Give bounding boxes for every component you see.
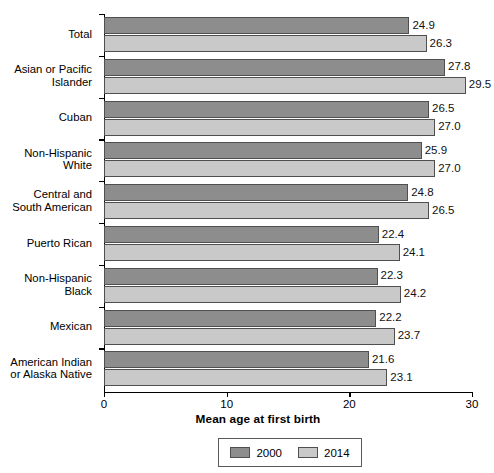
category-label: Total: [0, 28, 92, 41]
bar-group: 24.826.5: [104, 183, 472, 225]
bar-value-label: 22.4: [382, 229, 404, 241]
bar-group: 22.324.2: [104, 267, 472, 309]
bar-2000: 24.9: [104, 17, 409, 34]
bar-group: 25.927.0: [104, 141, 472, 183]
bar-value-label: 24.8: [411, 187, 433, 199]
y-axis-tick: [99, 56, 104, 57]
bar-value-label: 23.7: [398, 330, 420, 342]
bar-chart: TotalAsian or Pacific IslanderCubanNon-H…: [0, 0, 494, 473]
category-label: Puerto Rican: [0, 237, 92, 250]
bar-2000: 22.4: [104, 226, 379, 243]
x-axis-tick-label: 30: [466, 398, 479, 410]
bar-group: 22.223.7: [104, 309, 472, 351]
legend-label: 2014: [324, 447, 350, 459]
bar-value-label: 25.9: [425, 145, 447, 157]
bar-2014: 26.5: [104, 202, 429, 219]
x-axis-tick: [104, 392, 105, 397]
bar-value-label: 24.9: [412, 20, 434, 32]
bar-2014: 27.0: [104, 119, 435, 136]
bar-value-label: 26.5: [432, 103, 454, 115]
bar-value-label: 27.0: [438, 121, 460, 133]
bar-2014: 27.0: [104, 160, 435, 177]
y-axis-tick: [99, 14, 104, 15]
bar-2000: 27.8: [104, 59, 445, 76]
category-label: Non-Hispanic Black: [0, 272, 92, 298]
x-axis-tick-label: 0: [101, 398, 107, 410]
category-label: Cuban: [0, 111, 92, 124]
category-label: American Indian or Alaska Native: [0, 356, 92, 382]
bar-value-label: 22.3: [381, 271, 403, 283]
x-axis-tick: [349, 392, 350, 397]
bar-2014: 24.2: [104, 286, 401, 303]
bar-value-label: 29.5: [469, 80, 491, 92]
y-axis-tick: [99, 307, 104, 308]
chart-legend: 20002014: [218, 438, 362, 467]
bar-2014: 26.3: [104, 35, 427, 52]
bar-value-label: 23.1: [390, 372, 412, 384]
x-axis-title-text: Mean age at first birth: [196, 412, 321, 426]
y-axis-tick: [99, 223, 104, 224]
bar-2014: 29.5: [104, 77, 466, 94]
plot-area: 24.926.327.829.526.527.025.927.024.826.5…: [104, 14, 472, 392]
bar-group: 22.424.1: [104, 225, 472, 267]
bar-value-label: 27.8: [448, 62, 470, 74]
x-axis-title: Mean age at first birth: [0, 412, 494, 426]
bar-value-label: 24.2: [404, 289, 426, 301]
x-axis-tick: [227, 392, 228, 397]
bar-value-label: 22.2: [379, 312, 401, 324]
x-axis-tick-label: 20: [343, 398, 356, 410]
y-axis-tick: [99, 265, 104, 266]
category-labels: TotalAsian or Pacific IslanderCubanNon-H…: [0, 14, 100, 392]
bar-value-label: 21.6: [372, 354, 394, 366]
category-label: Non-Hispanic White: [0, 147, 92, 173]
bar-2014: 23.1: [104, 369, 387, 386]
legend-swatch: [298, 447, 318, 458]
category-label: Mexican: [0, 320, 92, 333]
bar-2000: 26.5: [104, 101, 429, 118]
bar-2000: 22.3: [104, 268, 378, 285]
bar-value-label: 24.1: [403, 247, 425, 259]
legend-item: 2014: [298, 447, 350, 459]
category-label: Asian or Pacific Islander: [0, 63, 92, 89]
legend-item: 2000: [230, 447, 282, 459]
bar-2014: 23.7: [104, 328, 395, 345]
x-axis-line: [104, 392, 472, 393]
bar-2000: 25.9: [104, 142, 422, 159]
bar-2000: 24.8: [104, 184, 408, 201]
bar-2000: 21.6: [104, 351, 369, 368]
bar-2014: 24.1: [104, 244, 400, 261]
y-axis-tick: [99, 98, 104, 99]
x-axis-tick: [472, 392, 473, 397]
bar-value-label: 26.3: [430, 38, 452, 50]
x-axis-tick-label: 10: [220, 398, 233, 410]
y-axis-tick: [99, 139, 104, 140]
category-label: Central and South American: [0, 188, 92, 214]
bar-value-label: 26.5: [432, 205, 454, 217]
y-axis-tick: [99, 348, 104, 349]
bar-group: 21.623.1: [104, 350, 472, 392]
bar-value-label: 27.0: [438, 163, 460, 175]
bar-2000: 22.2: [104, 310, 376, 327]
y-axis-tick: [99, 181, 104, 182]
legend-label: 2000: [256, 447, 282, 459]
bar-group: 24.926.3: [104, 16, 472, 58]
bar-group: 27.829.5: [104, 58, 472, 100]
legend-swatch: [230, 447, 250, 458]
bar-group: 26.527.0: [104, 100, 472, 142]
